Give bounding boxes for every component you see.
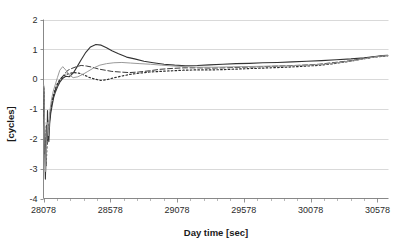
chart-container: -4-3-2-1012 2807828578290782957830078305… <box>0 0 397 245</box>
x-tick-label: 30078 <box>298 205 323 215</box>
y-tick-label: -2 <box>29 134 37 144</box>
x-tick-label: 30578 <box>365 205 390 215</box>
x-axis-title: Day time [sec] <box>184 227 248 238</box>
x-tick-label: 28578 <box>98 205 123 215</box>
x-tick-label: 29578 <box>231 205 256 215</box>
y-tick-label: -3 <box>29 164 37 174</box>
line-chart: -4-3-2-1012 2807828578290782957830078305… <box>0 0 397 245</box>
y-axis-title: [cycles] <box>5 106 16 141</box>
chart-background <box>0 0 397 245</box>
y-tick-label: 1 <box>32 45 37 55</box>
y-tick-label: 2 <box>32 15 37 25</box>
x-tick-label: 29078 <box>165 205 190 215</box>
y-tick-label: -4 <box>29 194 37 204</box>
y-tick-label: 0 <box>32 74 37 84</box>
x-tick-label: 28078 <box>31 205 56 215</box>
y-tick-label: -1 <box>29 104 37 114</box>
